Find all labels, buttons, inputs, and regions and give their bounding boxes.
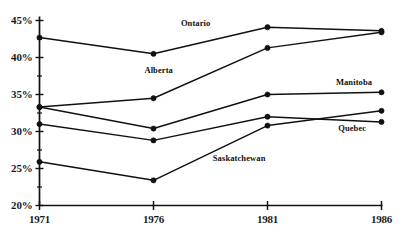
y-axis-label-20%: 20% bbox=[0, 199, 33, 211]
data-point-alberta-1981 bbox=[265, 45, 270, 50]
data-point-saskatchewan-1986 bbox=[379, 108, 384, 113]
chart-plot-area bbox=[0, 0, 410, 236]
data-point-manitoba-1971 bbox=[37, 104, 42, 109]
x-axis-label-1971: 1971 bbox=[10, 213, 70, 225]
data-point-quebec-1986 bbox=[379, 119, 384, 124]
series-line-saskatchewan bbox=[40, 111, 382, 181]
data-point-alberta-1976 bbox=[151, 96, 156, 101]
y-axis-label-40%: 40% bbox=[0, 51, 33, 63]
y-axis-label-30%: 30% bbox=[0, 125, 33, 137]
line-chart: 20%25%30%35%40%45% 1971197619811986 Onta… bbox=[0, 0, 410, 236]
y-axis-label-25%: 25% bbox=[0, 162, 33, 174]
data-point-quebec-1981 bbox=[265, 114, 270, 119]
x-axis-label-1986: 1986 bbox=[352, 213, 410, 225]
data-point-manitoba-1981 bbox=[265, 92, 270, 97]
x-axis-label-1981: 1981 bbox=[238, 213, 298, 225]
data-point-ontario-1976 bbox=[151, 51, 156, 56]
data-point-alberta-1986 bbox=[379, 30, 384, 35]
x-axis-label-1976: 1976 bbox=[124, 213, 184, 225]
series-line-alberta bbox=[40, 32, 382, 107]
series-layer bbox=[37, 25, 384, 183]
series-label-alberta: Alberta bbox=[144, 65, 173, 75]
data-point-ontario-1971 bbox=[37, 35, 42, 40]
axis-layer bbox=[36, 17, 383, 211]
series-label-saskatchewan: Saskatchewan bbox=[213, 153, 266, 163]
data-point-quebec-1971 bbox=[37, 122, 42, 127]
data-point-saskatchewan-1976 bbox=[151, 178, 156, 183]
y-axis-label-45%: 45% bbox=[0, 14, 33, 26]
data-point-saskatchewan-1981 bbox=[265, 123, 270, 128]
series-label-quebec: Quebec bbox=[338, 123, 366, 133]
y-axis-label-35%: 35% bbox=[0, 88, 33, 100]
data-point-manitoba-1976 bbox=[151, 126, 156, 131]
data-point-saskatchewan-1971 bbox=[37, 159, 42, 164]
series-line-ontario bbox=[40, 27, 382, 54]
series-line-manitoba bbox=[40, 92, 382, 128]
series-line-quebec bbox=[40, 117, 382, 141]
data-point-quebec-1976 bbox=[151, 138, 156, 143]
data-point-manitoba-1986 bbox=[379, 90, 384, 95]
series-label-manitoba: Manitoba bbox=[336, 77, 372, 87]
series-label-ontario: Ontario bbox=[181, 18, 211, 28]
data-point-ontario-1981 bbox=[265, 25, 270, 30]
